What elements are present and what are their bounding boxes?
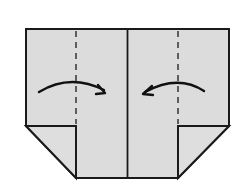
left-corner-flap [26, 126, 76, 178]
origami-diagram [0, 0, 240, 191]
right-corner-flap [178, 126, 229, 178]
